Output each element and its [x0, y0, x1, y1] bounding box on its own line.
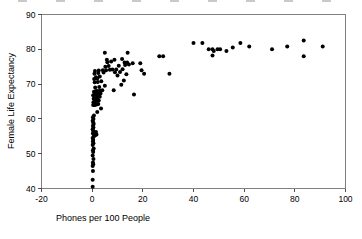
data-point: [218, 47, 222, 51]
data-point: [270, 47, 274, 51]
data-point: [321, 45, 325, 49]
data-point: [112, 88, 116, 92]
data-point: [107, 64, 111, 68]
clipped-mark: [208, 0, 217, 2]
clipped-mark: [18, 0, 27, 2]
y-tick-label: 70: [26, 79, 36, 89]
plot-canvas: 405060708090-20020406080100Phones per 10…: [0, 0, 362, 239]
data-point: [119, 83, 123, 87]
data-point: [125, 61, 129, 65]
data-point: [93, 69, 97, 73]
data-point: [207, 47, 211, 51]
data-point: [99, 79, 103, 83]
data-point: [103, 51, 107, 55]
y-tick-label: 40: [26, 184, 36, 194]
data-point: [121, 67, 125, 71]
plot-frame: [42, 15, 346, 189]
data-point: [114, 67, 118, 71]
y-tick-label: 50: [26, 149, 36, 159]
data-point: [161, 54, 165, 58]
y-axis-title: Female Life Expectancy: [6, 52, 16, 149]
data-point: [302, 39, 306, 43]
clipped-mark: [284, 0, 293, 2]
data-point: [103, 84, 107, 88]
data-point: [91, 153, 95, 157]
data-point: [97, 85, 101, 89]
data-point: [91, 169, 95, 173]
frame-border: [42, 15, 346, 189]
data-point: [91, 178, 95, 182]
y-tick-label: 80: [26, 44, 36, 54]
data-point: [212, 49, 216, 53]
data-point: [98, 74, 102, 78]
y-tick-label: 90: [26, 10, 36, 20]
data-point: [140, 68, 144, 72]
x-axis: -20020406080100: [35, 189, 353, 204]
data-point: [91, 157, 95, 161]
data-point: [200, 41, 204, 45]
data-point: [93, 86, 97, 90]
data-point: [91, 185, 95, 189]
y-axis: 405060708090: [26, 10, 41, 194]
data-point: [224, 49, 228, 53]
x-tick-label: 40: [189, 194, 199, 204]
x-axis-title: Phones per 100 People: [56, 213, 150, 223]
data-point: [112, 58, 116, 62]
data-point: [126, 51, 130, 55]
data-point: [211, 54, 215, 58]
clipped-mark: [322, 0, 331, 2]
clipped-mark: [170, 0, 179, 2]
scatter-plot-figure: 405060708090-20020406080100Phones per 10…: [0, 0, 362, 239]
data-point: [132, 93, 136, 97]
data-point: [92, 146, 96, 150]
data-point: [105, 58, 109, 62]
data-point: [192, 41, 196, 45]
x-tick-label: 100: [338, 194, 352, 204]
data-point: [96, 80, 100, 84]
data-point: [122, 79, 126, 83]
x-tick-label: 20: [138, 194, 148, 204]
data-point: [100, 88, 104, 92]
data-point: [131, 61, 135, 65]
data-point: [157, 54, 161, 58]
data-point: [91, 160, 95, 164]
data-points: [91, 39, 325, 189]
data-point: [238, 41, 242, 45]
data-point: [231, 46, 235, 50]
data-point: [110, 67, 114, 71]
data-point: [247, 45, 251, 49]
clipped-mark: [94, 0, 103, 2]
data-point: [99, 106, 103, 110]
data-point: [104, 68, 108, 72]
x-tick-label: -20: [35, 194, 48, 204]
clipped-mark: [246, 0, 255, 2]
data-point: [94, 75, 98, 79]
data-point: [95, 110, 99, 114]
data-point: [138, 61, 142, 65]
data-point: [103, 65, 107, 69]
data-point: [97, 69, 101, 73]
x-tick-label: 80: [290, 194, 300, 204]
x-tick-label: 60: [239, 194, 249, 204]
clipped-mark: [56, 0, 65, 2]
x-tick-label: 0: [90, 194, 95, 204]
data-point: [116, 73, 120, 77]
data-point: [92, 113, 96, 117]
clipped-mark: [132, 0, 141, 2]
data-point: [117, 64, 121, 68]
y-tick-label: 60: [26, 114, 36, 124]
clipped-top-row: [18, 0, 331, 2]
data-point: [167, 72, 171, 76]
data-point: [120, 57, 124, 61]
data-point: [285, 45, 289, 49]
data-point: [124, 72, 128, 76]
data-point: [302, 54, 306, 58]
data-point: [142, 72, 146, 76]
